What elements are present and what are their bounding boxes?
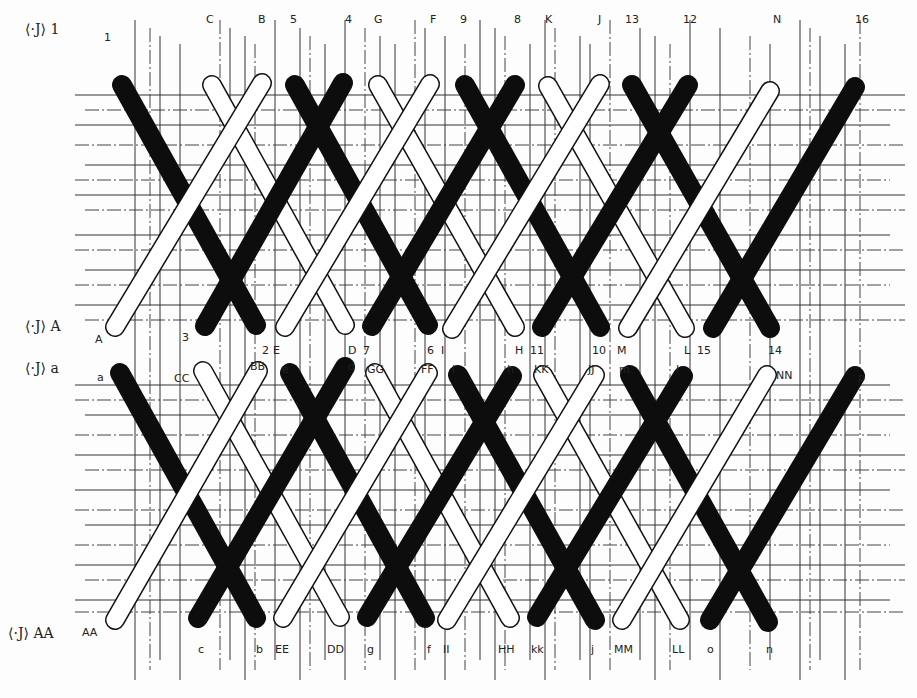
- strand-label: KK: [534, 363, 549, 376]
- strand-label: MM: [614, 643, 633, 656]
- strand-label: D: [348, 344, 356, 357]
- strand-label: 6: [427, 344, 434, 357]
- strand-label: G: [374, 13, 383, 26]
- strand-label: 15: [697, 344, 711, 357]
- strand-label: m: [619, 363, 630, 376]
- cane-weave-diagram: 1CB54GF98KJ1312N16A32ED76IH1110ML1514aCC…: [0, 0, 917, 698]
- strand-label: BB: [250, 360, 265, 373]
- strand-label: EE: [275, 643, 289, 656]
- strand-label: 16: [855, 13, 869, 26]
- strand-label: d: [348, 360, 355, 373]
- strand-label: F: [430, 13, 436, 26]
- strand-label: b: [256, 643, 263, 656]
- strand-label: c: [198, 643, 204, 656]
- strand-label: 8: [514, 13, 521, 26]
- row-marker-row-A: ⟨·J⟩ A: [25, 318, 61, 334]
- strand-label: H: [515, 344, 523, 357]
- strand-label: 3: [182, 331, 189, 344]
- strand-label: o: [707, 643, 714, 656]
- strand-label: AA: [82, 626, 98, 639]
- strand-label: i: [452, 363, 455, 376]
- row-markers: ⟨·J⟩ 1⟨·J⟩ A⟨·J⟩ a⟨·J⟩ AA: [8, 21, 61, 641]
- strand-label: DD: [327, 643, 344, 656]
- strand-label: 12: [683, 13, 697, 26]
- strand-label: C: [206, 13, 214, 26]
- strand-label: I: [441, 344, 444, 357]
- strand-label: B: [258, 13, 266, 26]
- strand-label: GG: [367, 363, 384, 376]
- strand-label: g: [367, 643, 374, 656]
- strands-top-panel: [115, 83, 855, 329]
- row-marker-row-1: ⟨·J⟩ 1: [25, 21, 59, 37]
- strand-label: E: [273, 344, 280, 357]
- strand-label: a: [97, 371, 104, 384]
- strand-label: l: [676, 363, 679, 376]
- strand-label: M: [617, 344, 627, 357]
- row-marker-row-a: ⟨·J⟩ a: [25, 360, 59, 376]
- strand-label: 1: [104, 31, 111, 44]
- diagram-canvas: 1CB54GF98KJ1312N16A32ED76IH1110ML1514aCC…: [0, 0, 917, 698]
- strands-bottom-panel: [115, 367, 855, 622]
- strand-label: 11: [530, 344, 544, 357]
- strand-label: FF: [421, 363, 434, 376]
- strand-label: 14: [768, 344, 782, 357]
- strand-label: JJ: [587, 363, 595, 376]
- strand-label: n: [766, 643, 773, 656]
- strand-label: 5: [290, 13, 297, 26]
- strand-label: HH: [498, 643, 515, 656]
- strand-label: e: [282, 363, 289, 376]
- strand-label: 2: [262, 344, 269, 357]
- row-marker-row-AA: ⟨·J⟩ AA: [8, 625, 55, 641]
- strand-label: 13: [625, 13, 639, 26]
- strand-label: 10: [592, 344, 606, 357]
- strand-label: j: [590, 643, 594, 656]
- strand-label: 4: [345, 13, 352, 26]
- strand-label: f: [427, 643, 432, 656]
- strand-label: h: [507, 363, 514, 376]
- strand-label: J: [597, 13, 601, 26]
- strand-label: kk: [531, 643, 544, 656]
- strand-label: 7: [363, 344, 370, 357]
- strand-label: NN: [776, 369, 792, 382]
- strand-label: 9: [460, 13, 467, 26]
- strand-label: LL: [672, 643, 685, 656]
- strand-dark-p-o: [710, 376, 855, 620]
- strand-dark-16-15: [713, 87, 855, 328]
- strand-label: N: [773, 13, 781, 26]
- strand-label: II: [443, 643, 450, 656]
- strand-label: L: [684, 344, 691, 357]
- strand-label: K: [545, 13, 553, 26]
- strand-label: A: [95, 333, 103, 346]
- strand-label: CC: [174, 372, 190, 385]
- strand-label: p: [858, 371, 865, 384]
